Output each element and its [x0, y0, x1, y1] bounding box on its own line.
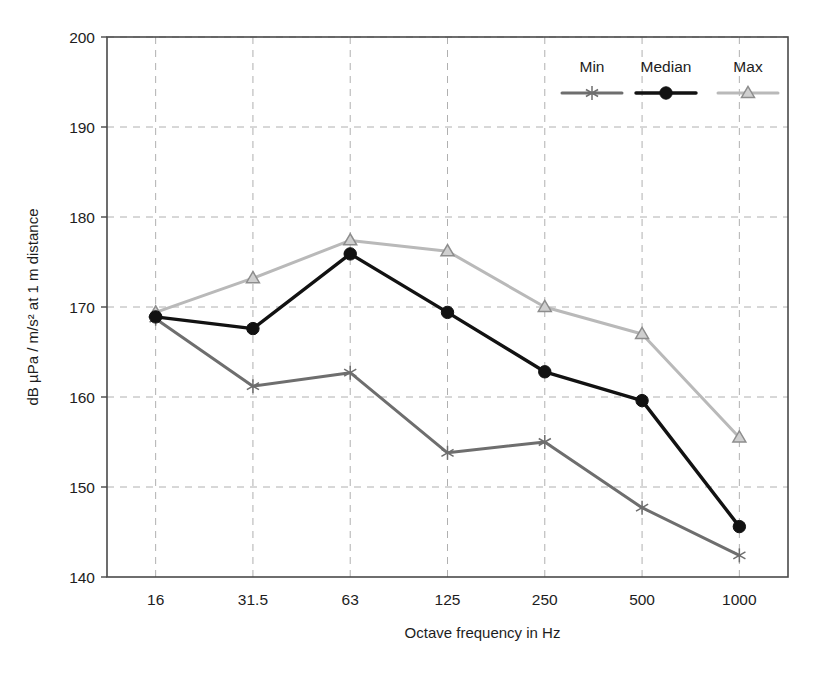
- y-tick-label: 180: [69, 209, 95, 226]
- y-axis-title: dB µPa / m/s² at 1 m distance: [24, 208, 41, 405]
- x-tick-label: 500: [629, 591, 655, 608]
- y-tick-label: 160: [69, 389, 95, 406]
- chart-figure: 1401501601701801902001631.56312525050010…: [0, 0, 820, 680]
- series-median-marker-circle: [636, 394, 648, 406]
- y-axis: 140150160170180190200: [69, 29, 107, 586]
- x-tick-label: 31.5: [238, 591, 268, 608]
- y-tick-label: 190: [69, 119, 95, 136]
- y-tick-label: 170: [69, 299, 95, 316]
- x-axis-title: Octave frequency in Hz: [405, 624, 561, 641]
- series-median-marker-circle: [441, 306, 453, 318]
- y-tick-label: 150: [69, 479, 95, 496]
- legend-median-marker-circle: [660, 87, 672, 99]
- x-tick-label: 63: [342, 591, 359, 608]
- legend-label-min: Min: [580, 58, 605, 75]
- x-tick-label: 250: [532, 591, 558, 608]
- x-axis: 1631.5631252505001000: [147, 591, 757, 608]
- y-tick-label: 140: [69, 569, 95, 586]
- y-tick-label: 200: [69, 29, 95, 46]
- series-median-marker-circle: [247, 322, 259, 334]
- series-median-marker-circle: [733, 520, 745, 532]
- legend-label-max: Max: [733, 58, 763, 75]
- x-tick-label: 1000: [722, 591, 757, 608]
- series-median-marker-circle: [344, 248, 356, 260]
- series-median-marker-circle: [539, 366, 551, 378]
- x-tick-label: 125: [435, 591, 461, 608]
- legend-label-median: Median: [641, 58, 692, 75]
- x-tick-label: 16: [147, 591, 164, 608]
- series-median-marker-circle: [149, 311, 161, 323]
- octave-band-line-chart: 1401501601701801902001631.56312525050010…: [0, 0, 820, 680]
